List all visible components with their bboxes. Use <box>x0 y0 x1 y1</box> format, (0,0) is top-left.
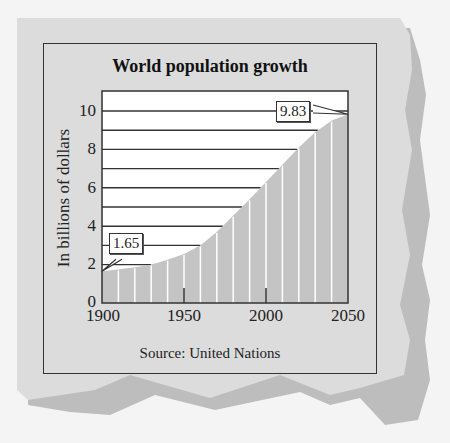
y-tick-10: 10 <box>66 102 96 119</box>
x-tick-2000: 2000 <box>236 307 296 324</box>
y-tick-4: 4 <box>66 217 96 234</box>
x-tick-1950: 1950 <box>154 307 214 324</box>
callout-start-value: 1.65 <box>109 233 143 254</box>
callout-end-value: 9.83 <box>276 101 310 122</box>
y-axis-label: In billions of dollars <box>54 88 74 308</box>
x-tick-2050: 2050 <box>318 307 378 324</box>
y-tick-6: 6 <box>66 179 96 196</box>
x-tick-1900: 1900 <box>73 307 133 324</box>
source-note: Source: United Nations <box>43 345 377 362</box>
y-tick-2: 2 <box>66 255 96 272</box>
y-tick-8: 8 <box>66 140 96 157</box>
